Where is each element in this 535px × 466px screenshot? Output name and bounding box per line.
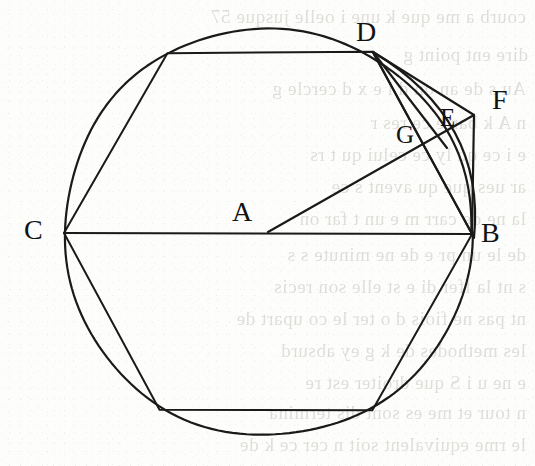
vertex-label-c: C [24,216,43,244]
vertex-label-e: E [440,105,455,130]
segment-D-B [373,52,472,234]
vertex-label-d: D [356,18,376,46]
segment-A-F [268,115,474,232]
vertex-label-g: G [396,122,414,147]
geometry-drawing [0,0,535,466]
vertex-label-f: F [492,86,508,114]
segment-F-B [472,115,474,234]
segment-C-B [64,233,472,234]
vertex-label-b: B [481,219,500,247]
geometry-figure: courb a me que k une i oelle jusque 57di… [0,0,535,466]
vertex-label-a: A [232,198,252,226]
